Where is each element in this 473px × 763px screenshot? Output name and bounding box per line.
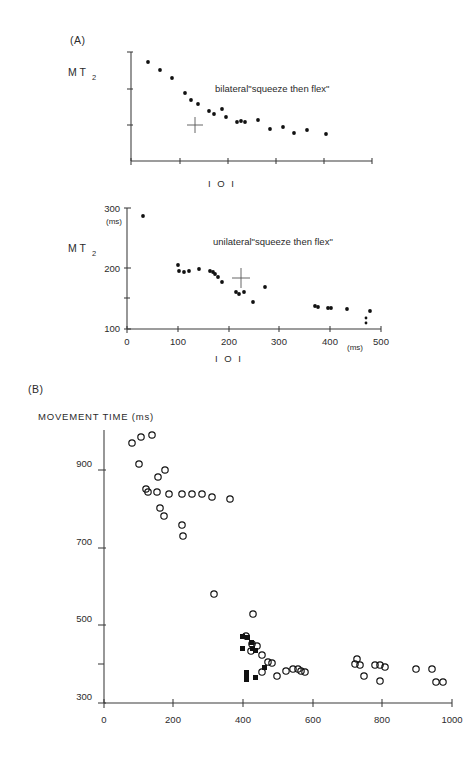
panel-b-x-tick-800: 800 — [374, 714, 390, 725]
mid-x-tick-300: 300 — [271, 336, 287, 347]
mid-x-tick-400: 400 — [322, 336, 338, 347]
mid-y-axis-name: M T — [68, 242, 86, 254]
panel-b-x-tick-200: 200 — [165, 714, 181, 725]
panel-b-open-circle-datapoints — [129, 432, 446, 685]
panel-b-x-tick-600: 600 — [305, 714, 321, 725]
figure-svg: (A) M T 2 bilateral"squeeze then flex" — [0, 0, 473, 763]
panel-b-label: (B) — [28, 383, 44, 395]
figure-container: (A) M T 2 bilateral"squeeze then flex" — [0, 0, 473, 763]
mid-x-unit: (ms) — [347, 343, 363, 352]
panel-b-y-tick-900: 900 — [76, 458, 92, 469]
mid-panel-x-axis-title: I O I — [215, 353, 243, 364]
mid-panel-datapoints — [141, 214, 372, 324]
top-panel-annotation: bilateral"squeeze then flex" — [215, 83, 329, 94]
top-panel-axes — [127, 52, 372, 165]
mid-x-tick-100: 100 — [170, 336, 186, 347]
mid-x-tick-500: 500 — [373, 336, 389, 347]
mid-panel-axes — [124, 208, 381, 333]
panel-b-axes — [98, 430, 452, 708]
mid-panel-crosshair-marker — [232, 268, 250, 288]
panel-b-y-axis-title: MOVEMENT TIME (ms) — [38, 411, 154, 422]
mid-y-tick-200: 200 — [104, 263, 120, 274]
top-panel-x-axis-title: I O I — [208, 178, 236, 189]
panel-a-label: (A) — [70, 34, 86, 46]
mid-y-axis-name-sub: 2 — [92, 249, 96, 258]
panel-b-y-tick-700: 700 — [76, 536, 92, 547]
mid-x-tick-0: 0 — [124, 336, 129, 347]
mid-y-tick-100: 100 — [104, 323, 120, 334]
mid-panel-annotation: unilateral"squeeze then flex" — [213, 236, 333, 247]
top-y-axis-name-sub: 2 — [92, 73, 96, 82]
panel-b-x-tick-400: 400 — [235, 714, 251, 725]
panel-b-y-tick-500: 500 — [76, 613, 92, 624]
mid-y-tick-300: 300 — [104, 203, 120, 214]
top-panel-crosshair-marker — [187, 117, 203, 133]
top-panel-datapoints — [146, 60, 328, 136]
panel-b-x-tick-0: 0 — [101, 714, 106, 725]
mid-y-unit: (ms) — [106, 217, 122, 226]
top-y-axis-name: M T — [68, 66, 86, 78]
panel-b-x-tick-1000: 1000 — [441, 714, 462, 725]
mid-x-tick-200: 200 — [221, 336, 237, 347]
panel-b-y-tick-300: 300 — [76, 691, 92, 702]
